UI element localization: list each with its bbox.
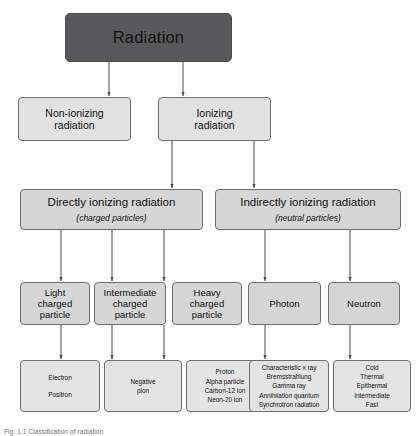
example-item: pion: [137, 386, 149, 395]
node-non-ionizing-radiation-label-line2: radiation: [54, 119, 94, 131]
node-light-charged-particle[interactable]: Light charged particle: [20, 282, 90, 325]
example-item: Epithermal: [357, 381, 388, 390]
example-item: Cold: [365, 363, 378, 372]
node-light-charged-particle-line2: charged: [38, 298, 72, 309]
example-item: Synchrotron radiation: [259, 400, 320, 409]
node-directly-ionizing-radiation[interactable]: Directly ionizing radiation (charged par…: [20, 189, 203, 230]
node-ionizing-radiation-label-line2: radiation: [194, 119, 234, 131]
node-indirectly-ionizing-radiation-subtitle: (neutral particles): [275, 213, 341, 223]
node-intermediate-charged-particle-line3: particle: [115, 309, 146, 320]
example-item: Annihilation quantum: [259, 391, 319, 400]
example-item: Alpha particle: [206, 377, 245, 386]
example-item: Fast: [366, 400, 378, 409]
node-light-charged-particle-line3: particle: [40, 309, 71, 320]
node-neutron-line1: Neutron: [347, 298, 381, 309]
example-item: Negative: [130, 377, 155, 386]
node-ionizing-radiation-label-line1: Ionizing: [196, 107, 232, 119]
node-non-ionizing-radiation[interactable]: Non-ionizing radiation: [18, 97, 131, 141]
node-radiation-label: Radiation: [113, 28, 185, 47]
example-item: Intermediate: [354, 391, 390, 400]
node-ionizing-radiation[interactable]: Ionizing radiation: [158, 97, 271, 141]
node-intermediate-charged-particle-line1: Intermediate: [104, 287, 157, 298]
node-heavy-charged-particle-line3: particle: [192, 309, 223, 320]
node-heavy-charged-particle-line1: Heavy: [194, 287, 221, 298]
node-photon[interactable]: Photon: [248, 282, 321, 325]
example-item: Characteristic x ray: [262, 363, 317, 372]
node-heavy-charged-particle-line2: charged: [190, 298, 224, 309]
example-item: Positron: [48, 390, 71, 399]
node-neutron-examples[interactable]: Cold Thermal Epithermal Intermediate Fas…: [333, 360, 411, 412]
figure-canvas: Radiation Non-ionizing radiation Ionizin…: [0, 0, 416, 436]
example-item: Bremsstrahlung: [267, 372, 312, 381]
node-intermediate-charged-particle[interactable]: Intermediate charged particle: [94, 282, 166, 325]
node-directly-ionizing-radiation-subtitle: (charged particles): [76, 213, 146, 223]
node-non-ionizing-radiation-label-line1: Non-ionizing: [45, 107, 103, 119]
node-light-charged-particle-examples[interactable]: Electron Positron: [20, 360, 100, 412]
node-directly-ionizing-radiation-title: Directly ionizing radiation: [48, 196, 176, 210]
figure-caption: Fig. 1.1 Classification of radiation: [4, 428, 103, 435]
node-neutron[interactable]: Neutron: [328, 282, 400, 325]
example-item: Gamma ray: [272, 381, 305, 390]
node-light-charged-particle-line1: Light: [45, 287, 66, 298]
example-item: Neon-20 ion: [208, 395, 243, 404]
example-item: Carbon-12 ion: [205, 386, 246, 395]
node-indirectly-ionizing-radiation[interactable]: Indirectly ionizing radiation (neutral p…: [215, 189, 401, 230]
node-photon-line1: Photon: [269, 298, 299, 309]
node-heavy-charged-particle[interactable]: Heavy charged particle: [172, 282, 242, 325]
example-item: Electron: [48, 373, 71, 382]
example-item: Thermal: [360, 372, 383, 381]
node-radiation[interactable]: Radiation: [65, 13, 232, 62]
node-intermediate-charged-particle-examples[interactable]: Negative pion: [104, 360, 182, 412]
node-photon-examples[interactable]: Characteristic x ray Bremsstrahlung Gamm…: [249, 360, 329, 412]
node-intermediate-charged-particle-line2: charged: [113, 298, 147, 309]
node-indirectly-ionizing-radiation-title: Indirectly ionizing radiation: [240, 196, 376, 210]
example-item: Proton: [216, 367, 235, 376]
